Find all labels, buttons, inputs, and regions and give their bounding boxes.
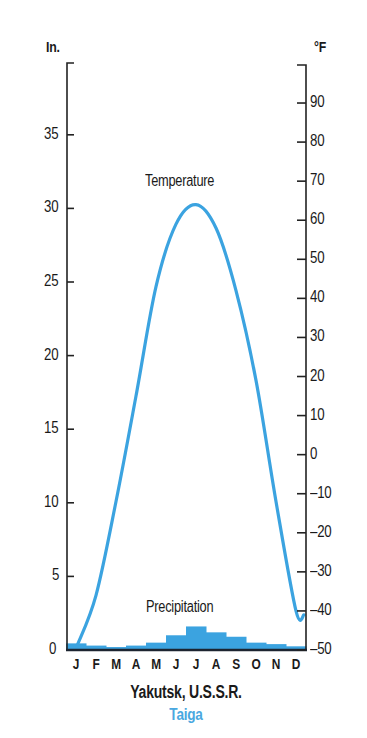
precipitation-bar — [186, 626, 207, 650]
month-label: M — [148, 656, 165, 672]
left-axis-tick-label: 25 — [44, 271, 58, 291]
precipitation-bar — [226, 637, 247, 650]
temperature-line — [77, 205, 304, 647]
precipitation-bars — [66, 626, 307, 650]
month-label: A — [208, 656, 225, 672]
right-axis-tick-label: 60 — [310, 209, 324, 229]
right-axis-tick-label: 70 — [310, 170, 324, 190]
right-axis-tick-label: 0 — [310, 444, 317, 464]
left-axis-tick-label: 10 — [44, 492, 58, 512]
right-axis-tick-label: 10 — [310, 405, 324, 425]
right-axis-tick-label: –10 — [310, 483, 331, 503]
month-label: M — [108, 656, 125, 672]
temperature-series-label: Temperature — [145, 172, 214, 190]
left-axis-tick-label: 0 — [49, 639, 56, 659]
left-axis-tick-label: 20 — [44, 345, 58, 365]
right-axis-tick-label: 30 — [310, 326, 324, 346]
right-axis-tick-label: 80 — [310, 131, 324, 151]
left-axis-tick-label: 15 — [44, 418, 58, 438]
chart-title: Yakutsk, U.S.S.R. — [92, 682, 279, 703]
right-axis-tick-label: 50 — [310, 248, 324, 268]
month-label: N — [268, 656, 285, 672]
month-label: O — [248, 656, 265, 672]
precipitation-bar — [166, 635, 187, 650]
precipitation-series-label: Precipitation — [146, 598, 213, 616]
month-label: S — [228, 656, 245, 672]
right-axis-tick-label: 20 — [310, 366, 324, 386]
precipitation-bar — [206, 632, 227, 650]
left-axis-unit-label: In. — [46, 38, 60, 55]
right-axis-unit-label: °F — [314, 38, 326, 55]
right-axis-tick-label: –50 — [310, 639, 331, 659]
right-axis-tick-label: –20 — [310, 522, 331, 542]
month-label: F — [88, 656, 105, 672]
month-label: J — [68, 656, 85, 672]
month-label: J — [188, 656, 205, 672]
month-label: A — [128, 656, 145, 672]
left-axis-tick-label: 5 — [52, 565, 59, 585]
month-label: J — [168, 656, 185, 672]
right-axis-tick-label: –30 — [310, 561, 331, 581]
left-axis-tick-label: 30 — [44, 197, 58, 217]
chart-subtitle: Taiga — [90, 705, 282, 725]
right-axis-tick-label: –40 — [310, 600, 331, 620]
right-axis-tick-label: 40 — [310, 287, 324, 307]
right-axis-tick-label: 90 — [310, 92, 324, 112]
left-axis-tick-label: 35 — [44, 124, 58, 144]
month-label: D — [288, 656, 305, 672]
